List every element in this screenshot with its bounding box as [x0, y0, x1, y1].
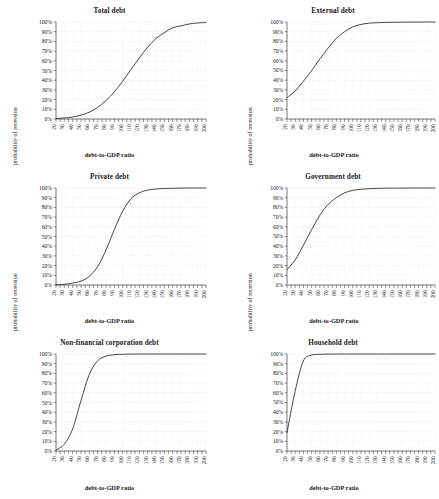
x-tick-label: 20: [282, 124, 288, 130]
x-tick-label: 110: [356, 290, 362, 298]
x-tick-label: 90: [109, 124, 115, 130]
y-tick-label: 30%: [273, 87, 283, 93]
x-tick-label: 200: [201, 124, 207, 132]
x-tick-label: 130: [372, 124, 378, 132]
y-tick-label: 100%: [270, 185, 283, 191]
x-tick-label: 90: [340, 290, 346, 296]
x-tick-label: 60: [315, 290, 321, 296]
x-axis-label: debt-to-GDP ratio: [0, 317, 219, 324]
x-tick-label: 130: [372, 456, 378, 464]
y-tick-label: 40%: [273, 77, 283, 83]
y-tick-label: 60%: [42, 58, 53, 64]
y-tick-label: 80%: [42, 38, 53, 44]
y-tick-label: 50%: [42, 68, 53, 74]
y-tick-label: 100%: [270, 351, 283, 357]
x-axis-label: debt-to-GDP ratio: [0, 151, 219, 158]
y-tick-label: 50%: [273, 67, 283, 73]
y-tick-label: 80%: [273, 38, 283, 44]
plot-area: 0%10%20%30%40%50%60%70%80%90%100%2030405…: [56, 188, 206, 285]
x-tick-label: 20: [51, 124, 57, 130]
x-tick-label: 200: [201, 456, 207, 464]
x-axis-label: debt-to-GDP ratio: [0, 484, 219, 491]
x-tick-label: 30: [59, 456, 65, 462]
x-tick-label: 140: [381, 124, 387, 132]
x-tick-label: 110: [356, 124, 362, 132]
x-tick-label: 20: [51, 456, 57, 462]
y-tick-label: 30%: [273, 419, 283, 425]
x-tick-label: 160: [397, 290, 403, 298]
x-tick-label: 30: [59, 124, 65, 130]
y-tick-label: 100%: [270, 19, 283, 25]
x-tick-label: 100: [348, 124, 354, 132]
x-tick-label: 180: [184, 456, 190, 464]
x-tick-label: 60: [84, 290, 90, 296]
y-axis-label: probability of recession: [247, 0, 257, 18]
x-tick-label: 130: [143, 124, 149, 132]
x-tick-label: 20: [282, 456, 288, 462]
x-tick-label: 200: [430, 124, 436, 132]
x-tick-label: 100: [348, 456, 354, 464]
x-tick-label: 40: [68, 290, 74, 296]
x-tick-label: 30: [290, 456, 296, 462]
data-curve: [56, 354, 206, 450]
x-tick-label: 130: [143, 456, 149, 464]
x-tick-label: 120: [364, 290, 370, 298]
x-tick-label: 170: [176, 124, 182, 132]
plot-area: 0%10%20%30%40%50%60%70%80%90%100%2030405…: [287, 354, 435, 451]
x-tick-label: 130: [372, 290, 378, 298]
x-tick-label: 120: [134, 456, 140, 464]
y-tick-label: 80%: [42, 204, 53, 210]
x-tick-label: 110: [356, 456, 362, 464]
y-tick-label: 20%: [42, 97, 53, 103]
y-tick-label: 30%: [42, 253, 53, 259]
x-tick-label: 90: [109, 290, 115, 296]
y-tick-label: 30%: [42, 87, 53, 93]
chart-grid: Total debtprobability of recessiondebt-t…: [0, 0, 439, 499]
x-tick-label: 110: [126, 124, 132, 132]
y-tick-label: 100%: [39, 351, 52, 357]
x-tick-label: 140: [151, 456, 157, 464]
chart-title: Private debt: [0, 173, 219, 181]
y-tick-label: 70%: [273, 48, 283, 54]
x-tick-label: 20: [51, 290, 57, 296]
y-tick-label: 30%: [42, 419, 53, 425]
y-tick-label: 10%: [273, 106, 283, 112]
x-tick-label: 170: [176, 456, 182, 464]
x-tick-label: 70: [323, 124, 329, 130]
y-tick-label: 40%: [42, 77, 53, 83]
y-tick-label: 0%: [45, 448, 53, 454]
y-tick-label: 90%: [42, 195, 53, 201]
x-tick-label: 70: [93, 124, 99, 130]
x-tick-label: 180: [184, 290, 190, 298]
x-tick-label: 150: [389, 456, 395, 464]
data-curve: [56, 188, 206, 285]
x-tick-label: 40: [68, 456, 74, 462]
y-tick-label: 70%: [273, 214, 283, 220]
y-axis-label: probability of recession: [12, 88, 22, 184]
y-tick-label: 100%: [39, 19, 52, 25]
x-tick-label: 170: [176, 290, 182, 298]
x-tick-label: 50: [76, 456, 82, 462]
x-tick-label: 20: [282, 290, 288, 296]
x-tick-label: 80: [101, 124, 107, 130]
chart-title: Non-financial corporation debt: [0, 339, 219, 347]
x-tick-label: 190: [422, 124, 428, 132]
y-tick-label: 0%: [45, 282, 53, 288]
x-tick-label: 130: [143, 290, 149, 298]
x-tick-label: 180: [184, 124, 190, 132]
y-tick-label: 60%: [273, 58, 283, 64]
x-tick-label: 180: [414, 124, 420, 132]
y-tick-label: 40%: [273, 243, 283, 249]
x-tick-label: 60: [315, 124, 321, 130]
x-tick-label: 140: [381, 290, 387, 298]
y-tick-label: 90%: [42, 361, 53, 367]
x-tick-label: 80: [101, 456, 107, 462]
x-tick-label: 80: [331, 124, 337, 130]
y-tick-label: 0%: [276, 116, 284, 122]
x-tick-label: 150: [159, 456, 165, 464]
x-tick-label: 90: [109, 456, 115, 462]
x-tick-label: 120: [364, 456, 370, 464]
x-tick-label: 120: [134, 124, 140, 132]
x-tick-label: 90: [340, 456, 346, 462]
x-tick-label: 190: [422, 290, 428, 298]
